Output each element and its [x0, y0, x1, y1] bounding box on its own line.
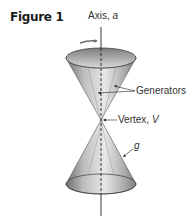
vertex-label-text: Vertex,: [118, 114, 152, 125]
generator-variable: g: [134, 140, 140, 151]
double-cone-diagram: [0, 0, 189, 223]
generators-label: Generators: [136, 85, 186, 96]
generator-g-label: g: [134, 140, 140, 151]
axis-variable: a: [112, 10, 118, 21]
axis-label: Axis, a: [88, 10, 118, 21]
lower-nappe: [66, 120, 136, 194]
axis-label-text: Axis,: [88, 10, 112, 21]
vertex-variable: V: [152, 114, 159, 125]
vertex-label: Vertex, V: [118, 114, 159, 125]
